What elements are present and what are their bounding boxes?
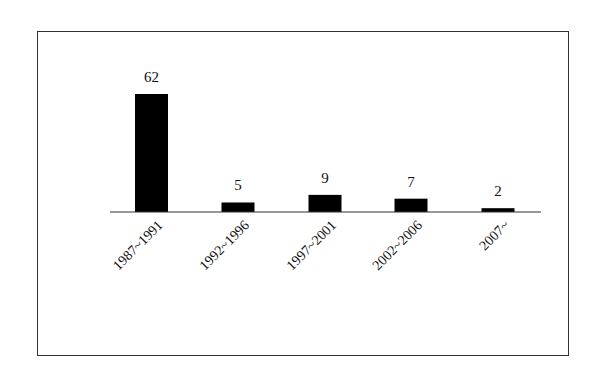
data-label: 62 (144, 69, 159, 85)
data-label: 2 (494, 183, 502, 199)
data-label: 7 (407, 174, 415, 190)
bar-3 (395, 199, 428, 212)
x-tick-label: 1992~1996 (197, 218, 253, 274)
data-label: 9 (321, 170, 329, 186)
bar-2 (309, 195, 342, 212)
x-tick-label: 2002~2006 (370, 218, 426, 274)
bar-0 (135, 94, 168, 212)
data-label: 5 (234, 177, 242, 193)
x-tick-label: 1997~2001 (284, 218, 340, 274)
bar-1 (222, 202, 255, 212)
x-tick-label: 2007~ (476, 217, 512, 253)
x-tick-label: 1987~1991 (110, 218, 166, 274)
bar-chart: 621987~199151992~199691997~200172002~200… (0, 0, 603, 377)
